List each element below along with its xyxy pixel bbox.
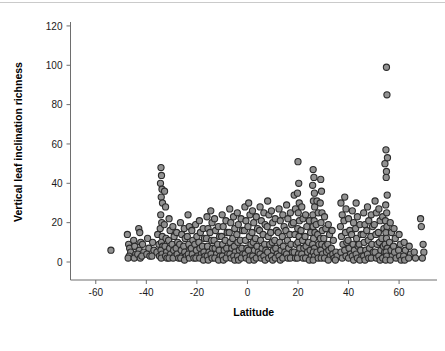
- data-point: [177, 220, 183, 226]
- data-point: [170, 223, 176, 229]
- data-point: [376, 206, 382, 212]
- data-point: [364, 204, 370, 210]
- data-point: [302, 212, 308, 218]
- data-point: [158, 194, 164, 200]
- y-tick-label: 40: [51, 178, 63, 189]
- figure-container: 020406080100120-60-40-200204060LatitudeV…: [0, 0, 445, 351]
- data-point: [337, 223, 343, 229]
- data-point: [185, 212, 191, 218]
- data-point: [184, 233, 190, 239]
- data-point: [384, 192, 390, 198]
- data-point: [137, 229, 143, 235]
- y-tick-label: 80: [51, 99, 63, 110]
- data-point: [325, 257, 331, 263]
- data-point: [382, 161, 388, 167]
- data-point: [420, 241, 426, 247]
- data-point: [342, 194, 348, 200]
- data-point: [332, 257, 338, 263]
- data-point: [406, 243, 412, 249]
- data-point: [411, 249, 417, 255]
- data-point: [349, 208, 355, 214]
- data-point: [220, 223, 226, 229]
- data-point: [339, 212, 345, 218]
- data-point: [276, 206, 282, 212]
- data-point: [417, 216, 423, 222]
- data-point: [124, 231, 130, 237]
- data-point: [406, 255, 412, 261]
- data-point: [234, 231, 240, 237]
- data-point: [298, 227, 304, 233]
- data-point: [299, 204, 305, 210]
- data-point: [384, 155, 390, 161]
- data-point: [312, 204, 318, 210]
- data-point: [384, 92, 390, 98]
- data-point: [318, 220, 324, 226]
- data-point: [418, 223, 424, 229]
- data-point: [268, 229, 274, 235]
- data-point: [226, 229, 232, 235]
- data-point: [234, 210, 240, 216]
- data-point: [375, 229, 381, 235]
- data-point: [391, 225, 397, 231]
- data-point: [387, 220, 393, 226]
- data-point: [310, 182, 316, 188]
- data-point: [366, 218, 372, 224]
- data-point: [311, 190, 317, 196]
- data-point: [162, 204, 168, 210]
- data-point: [311, 174, 317, 180]
- x-tick-label: 20: [292, 287, 304, 298]
- data-point: [372, 198, 378, 204]
- data-point: [321, 214, 327, 220]
- data-point: [318, 188, 324, 194]
- y-tick-label: 20: [51, 217, 63, 228]
- data-point: [361, 210, 367, 216]
- data-point: [227, 206, 233, 212]
- data-point: [208, 208, 214, 214]
- data-point: [284, 202, 290, 208]
- data-point: [419, 255, 425, 261]
- data-point: [302, 233, 308, 239]
- data-point: [108, 247, 114, 253]
- data-point: [384, 210, 390, 216]
- data-point: [396, 231, 402, 237]
- x-tick-label: -60: [89, 287, 104, 298]
- data-point: [268, 208, 274, 214]
- data-point: [158, 172, 164, 178]
- data-point: [295, 210, 301, 216]
- data-point: [383, 202, 389, 208]
- data-point: [189, 227, 195, 233]
- data-point: [277, 218, 283, 224]
- data-point: [290, 220, 296, 226]
- y-axis-ticks: 020406080100120: [46, 21, 71, 268]
- data-point: [364, 227, 370, 233]
- data-point: [329, 227, 335, 233]
- data-point: [317, 200, 323, 206]
- data-point: [166, 216, 172, 222]
- data-point: [350, 220, 356, 226]
- data-point: [131, 237, 137, 243]
- scatter-plot: 020406080100120-60-40-200204060LatitudeV…: [0, 0, 445, 351]
- data-point: [125, 255, 131, 261]
- data-point: [157, 180, 163, 186]
- data-point: [158, 164, 164, 170]
- x-tick-label: -20: [190, 287, 205, 298]
- data-point: [325, 222, 331, 228]
- y-tick-label: 120: [46, 21, 63, 32]
- data-point: [318, 176, 324, 182]
- data-point: [395, 247, 401, 253]
- data-point: [383, 147, 389, 153]
- data-point: [371, 222, 377, 228]
- x-tick-label: 60: [394, 287, 406, 298]
- data-point: [338, 200, 344, 206]
- data-point: [383, 174, 389, 180]
- data-point: [158, 212, 164, 218]
- data-point: [245, 223, 251, 229]
- data-point: [249, 229, 255, 235]
- data-point: [161, 222, 167, 228]
- data-point: [421, 249, 427, 255]
- data-point: [251, 220, 257, 226]
- data-point: [321, 235, 327, 241]
- data-point: [196, 218, 202, 224]
- y-tick-label: 60: [51, 139, 63, 150]
- data-point: [412, 255, 418, 261]
